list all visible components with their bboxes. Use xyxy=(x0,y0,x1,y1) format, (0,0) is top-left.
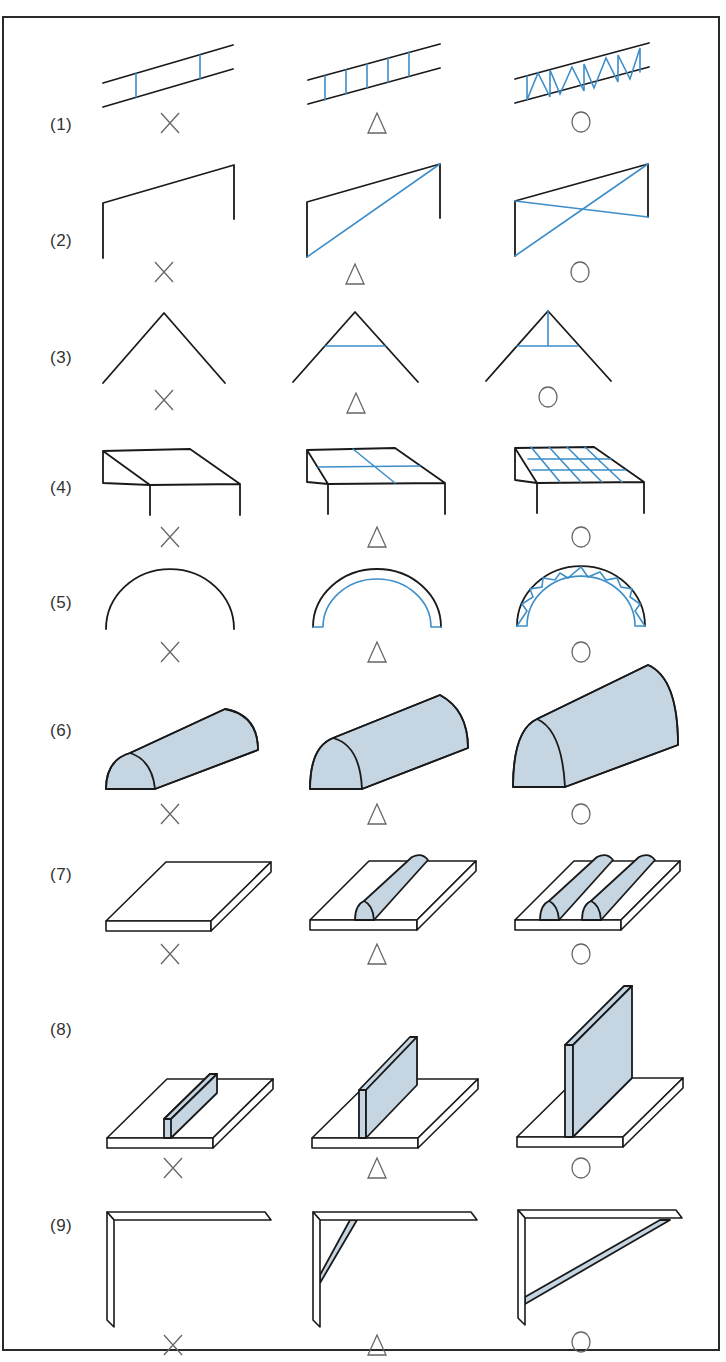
row-9-poor xyxy=(107,1212,271,1355)
diagram-canvas xyxy=(0,0,726,1362)
row-1-good xyxy=(515,43,649,132)
row-2-good xyxy=(515,164,648,282)
row-6-good xyxy=(513,665,678,824)
row-3-fair xyxy=(293,312,418,413)
row-4-fair xyxy=(307,448,445,547)
row-7-poor xyxy=(106,862,271,964)
row-4-good xyxy=(515,447,644,547)
row-7-fair xyxy=(310,855,476,964)
row-3-good xyxy=(486,311,611,407)
row-5-poor xyxy=(106,569,234,662)
row-2-poor xyxy=(103,165,234,282)
row-4-poor xyxy=(103,449,240,547)
row-1-poor xyxy=(103,45,233,133)
row-9-fair xyxy=(313,1212,477,1355)
row-1-fair xyxy=(308,44,440,133)
row-5-fair xyxy=(313,569,441,662)
row-6-poor xyxy=(106,709,258,824)
row-9-good xyxy=(518,1210,682,1352)
row-7-good xyxy=(515,855,680,964)
row-6-fair xyxy=(310,695,468,824)
row-3-poor xyxy=(103,313,225,410)
row-5-good xyxy=(517,566,645,662)
row-8-good xyxy=(517,986,683,1178)
row-2-fair xyxy=(307,164,440,284)
row-8-poor xyxy=(107,1074,273,1178)
row-8-fair xyxy=(312,1037,478,1178)
